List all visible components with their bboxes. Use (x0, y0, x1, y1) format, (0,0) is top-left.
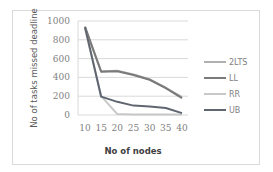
x-tick-label: 40 (176, 123, 188, 133)
y-tick-label: 400 (53, 72, 70, 82)
y-tick-label: 200 (53, 91, 70, 101)
y-tick-label: 1000 (47, 16, 70, 26)
x-axis-label: No of nodes (104, 146, 161, 156)
legend-label-rr: RR (229, 90, 241, 99)
x-tick-label: 10 (79, 123, 91, 133)
y-axis-label: No of tasks missed deadline (29, 8, 39, 128)
y-tick-label: 0 (64, 110, 70, 120)
series-line-rr (85, 29, 182, 115)
x-axis-ticks: 10152025303540 (79, 123, 188, 133)
y-tick-label: 600 (53, 54, 70, 64)
legend-label-ub: UB (229, 106, 240, 115)
legend-label-ll: LL (229, 74, 238, 83)
y-axis-ticks: 02004006008001000 (47, 16, 70, 120)
x-tick-label: 35 (160, 123, 172, 133)
x-tick-label: 25 (128, 123, 140, 133)
x-tick-label: 30 (144, 123, 156, 133)
line-chart: 02004006008001000 10152025303540 No of t… (0, 0, 273, 172)
y-tick-label: 800 (53, 35, 70, 45)
legend: 2LTSLLRRUB (204, 58, 247, 115)
legend-label-2lts: 2LTS (229, 58, 247, 67)
x-tick-label: 15 (95, 123, 107, 133)
x-tick-label: 20 (112, 123, 124, 133)
